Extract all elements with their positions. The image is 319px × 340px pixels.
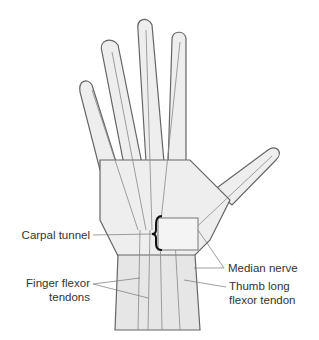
index-finger	[168, 32, 186, 168]
middle-finger	[138, 19, 164, 162]
label-finger-flexor-line2: tendons	[10, 291, 90, 304]
transverse-carpal-ligament	[158, 218, 198, 250]
label-thumb-flexor-line2: flexor tendon	[229, 294, 296, 307]
label-thumb-flexor-line1: Thumb long	[229, 280, 290, 293]
label-median-nerve: Median nerve	[228, 262, 298, 275]
label-carpal-tunnel: Carpal tunnel	[10, 229, 90, 242]
label-finger-flexor-line1: Finger flexor	[10, 277, 90, 290]
